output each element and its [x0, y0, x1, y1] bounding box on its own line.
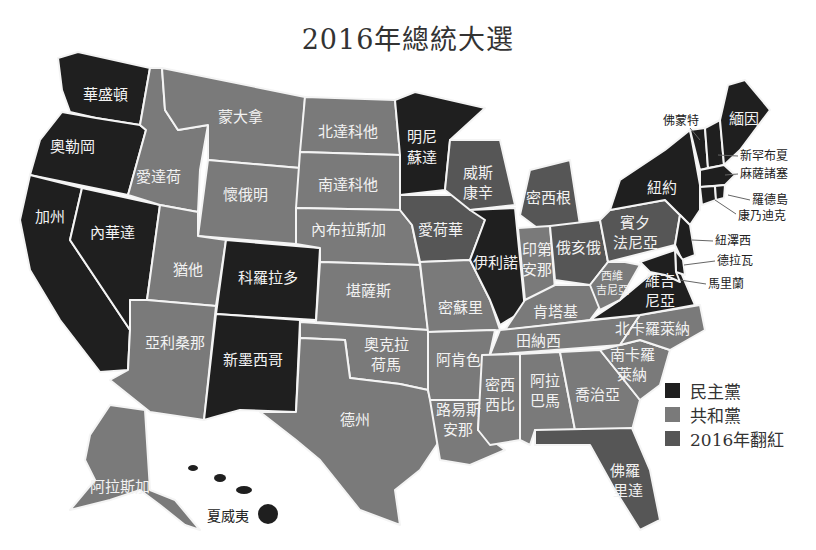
label-me: 緬因	[729, 110, 759, 128]
legend-item-rep: 共和黨	[665, 402, 784, 426]
legend-label-rep: 共和黨	[690, 402, 741, 427]
label-ak: 阿拉斯加	[90, 478, 150, 496]
label-wa: 華盛頓	[83, 86, 128, 104]
label-sc-1: 南卡羅	[610, 346, 655, 364]
label-mt: 蒙大拿	[218, 108, 263, 126]
label-in-2: 安那	[522, 261, 552, 279]
label-sd: 南達科他	[318, 176, 378, 194]
label-la-2: 安那	[443, 421, 473, 439]
label-nv: 內華達	[90, 224, 135, 242]
label-id: 愛達荷	[136, 168, 181, 186]
state-ct[interactable]	[700, 186, 716, 205]
label-wv-2: 吉尼亞	[596, 284, 629, 297]
label-ms-1: 密西	[485, 376, 515, 394]
label-pa-2: 法尼亞	[613, 234, 658, 252]
label-ok-1: 奧克拉	[364, 336, 409, 354]
state-ri[interactable]	[715, 185, 725, 200]
label-ma: 麻薩諸塞	[740, 166, 788, 181]
label-al-1: 阿拉	[530, 372, 560, 390]
label-fl-1: 佛羅	[610, 462, 640, 480]
label-vt: 佛蒙特	[663, 113, 699, 128]
state-ma[interactable]	[700, 165, 735, 187]
label-in-1: 印第	[522, 241, 552, 259]
label-hi: 夏威夷	[207, 508, 249, 524]
label-de: 德拉瓦	[717, 253, 753, 268]
legend-item-flipped: 2016年翻紅	[665, 426, 784, 450]
label-wy: 懷俄明	[223, 186, 268, 204]
label-ar: 阿肯色	[436, 351, 481, 369]
label-mn-2: 蘇達	[407, 149, 437, 167]
label-pa-1: 賓夕	[620, 214, 650, 232]
label-mn-1: 明尼	[407, 128, 437, 146]
label-ca: 加州	[35, 208, 65, 226]
state-fl[interactable]	[535, 428, 660, 530]
label-or: 奧勒岡	[50, 138, 95, 156]
label-ks: 堪薩斯	[346, 282, 391, 300]
label-fl-2: 里達	[613, 482, 643, 500]
label-ut: 猶他	[173, 261, 203, 279]
legend-label-dem: 民主黨	[690, 378, 741, 403]
label-nc: 北卡羅萊納	[615, 320, 690, 338]
legend-swatch-dem	[665, 383, 680, 398]
label-al-2: 巴馬	[530, 392, 560, 410]
legend-item-dem: 民主黨	[665, 378, 784, 402]
label-mi: 密西根	[526, 189, 571, 207]
label-ok-2: 荷馬	[371, 356, 401, 374]
label-tn: 田納西	[516, 332, 561, 350]
legend: 民主黨 共和黨 2016年翻紅	[665, 378, 784, 450]
label-ia: 愛荷華	[418, 221, 463, 239]
label-tx: 德州	[340, 411, 370, 429]
us-election-map: 華盛頓 奧勒岡 加州 內華達 愛達荷 蒙大拿 懷俄明 猶他 科羅拉多 亞利桑那 …	[0, 0, 816, 550]
label-nd: 北達科他	[318, 123, 378, 141]
label-co: 科羅拉多	[238, 269, 298, 287]
label-md: 馬里蘭	[708, 277, 744, 291]
label-nj: 紐澤西	[715, 234, 751, 248]
label-wv-1: 西維	[601, 270, 623, 283]
legend-swatch-rep	[665, 407, 680, 422]
label-ny: 紐約	[647, 179, 677, 197]
label-oh: 俄亥俄	[556, 239, 601, 257]
label-ga: 喬治亞	[575, 386, 620, 404]
label-va-1: 維吉	[645, 272, 675, 290]
label-sc-2: 萊納	[617, 366, 647, 384]
label-ms-2: 西比	[485, 396, 515, 414]
label-nh: 新罕布夏	[740, 148, 788, 163]
label-ky: 肯塔基	[533, 303, 578, 321]
label-ri: 羅德島	[752, 192, 788, 207]
label-nm: 新墨西哥	[223, 351, 283, 369]
label-wi-2: 康辛	[463, 184, 493, 202]
label-wi-1: 威斯	[463, 164, 493, 182]
label-ne: 內布拉斯加	[311, 221, 386, 239]
label-ct: 康乃迪克	[738, 208, 786, 223]
legend-label-flipped: 2016年翻紅	[690, 426, 784, 451]
label-mo: 密蘇里	[438, 299, 483, 317]
label-az: 亞利桑那	[145, 334, 205, 352]
label-la-1: 路易斯	[436, 401, 481, 419]
state-ak[interactable]	[70, 405, 200, 530]
label-il: 伊利諾	[473, 254, 518, 272]
legend-swatch-flipped	[665, 431, 680, 446]
label-va-2: 尼亞	[645, 292, 675, 310]
